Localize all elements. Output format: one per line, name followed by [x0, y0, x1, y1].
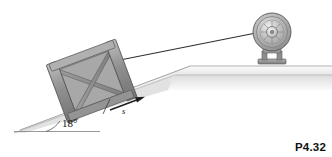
figure-number-label: P4.32 — [295, 141, 326, 153]
cable-line — [120, 31, 266, 60]
cable — [120, 31, 266, 60]
angle-label: 18° — [62, 117, 77, 129]
displacement-label: s — [122, 106, 126, 116]
physics-diagram-svg: 18° s — [0, 0, 332, 157]
figure-container: 18° s P4.32 — [0, 0, 332, 157]
displacement-arrowhead — [135, 97, 145, 103]
plateau-front-face — [168, 75, 332, 90]
plateau-top-surface — [175, 66, 332, 75]
pulley-axle — [270, 30, 274, 34]
pulley-assembly — [253, 13, 291, 64]
